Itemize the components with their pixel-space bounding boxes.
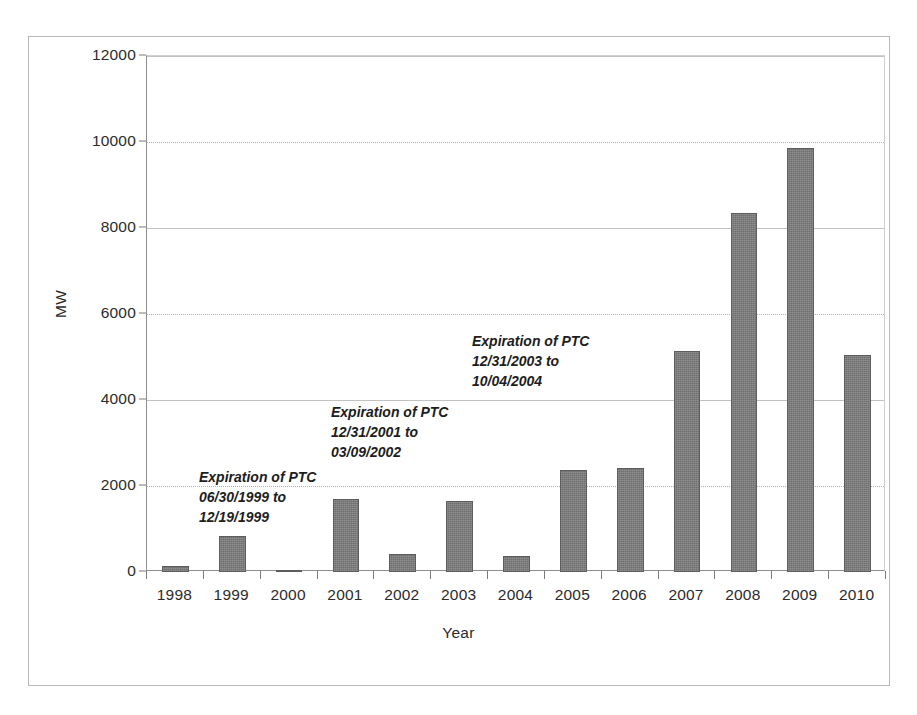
x-tick-label-2008: 2008 bbox=[725, 586, 760, 604]
annotation-ptc-2004: Expiration of PTC12/31/2003 to10/04/2004 bbox=[472, 332, 589, 392]
y-tick-label: 6000 bbox=[64, 304, 136, 322]
gridline-8000 bbox=[147, 228, 884, 229]
bar-2006 bbox=[617, 468, 644, 572]
bar-1999 bbox=[219, 536, 246, 572]
x-tick-label-2005: 2005 bbox=[555, 586, 590, 604]
plot-area: Expiration of PTC06/30/1999 to12/19/1999… bbox=[146, 55, 885, 571]
x-tick-mark bbox=[487, 571, 488, 579]
annotation-ptc-1999: Expiration of PTC06/30/1999 to12/19/1999 bbox=[199, 468, 316, 528]
y-tick-label: 8000 bbox=[64, 218, 136, 236]
gridline-12000 bbox=[147, 56, 884, 57]
y-tick-mark bbox=[139, 227, 146, 228]
x-tick-mark bbox=[771, 571, 772, 579]
y-tick-label: 4000 bbox=[64, 390, 136, 408]
y-tick-mark bbox=[139, 485, 146, 486]
y-tick-label: 2000 bbox=[64, 476, 136, 494]
gridline-6000 bbox=[147, 314, 884, 315]
bar-2002 bbox=[389, 554, 416, 572]
y-tick-label: 0 bbox=[64, 562, 136, 580]
bar-2004 bbox=[503, 556, 530, 572]
bar-2003 bbox=[446, 501, 473, 572]
bar-2009 bbox=[787, 148, 814, 572]
x-tick-mark bbox=[260, 571, 261, 579]
x-tick-mark bbox=[373, 571, 374, 579]
annotation-line: 06/30/1999 to bbox=[199, 488, 316, 508]
bar-2001 bbox=[333, 499, 360, 572]
annotation-line: 12/31/2003 to bbox=[472, 352, 589, 372]
annotation-line: 10/04/2004 bbox=[472, 372, 589, 392]
y-tick-mark bbox=[139, 141, 146, 142]
x-tick-mark bbox=[430, 571, 431, 579]
x-tick-mark bbox=[714, 571, 715, 579]
y-tick-mark bbox=[139, 571, 146, 572]
x-tick-mark bbox=[601, 571, 602, 579]
x-tick-label-2003: 2003 bbox=[441, 586, 476, 604]
x-tick-mark bbox=[544, 571, 545, 579]
bar-2007 bbox=[674, 351, 701, 572]
annotation-line: 12/19/1999 bbox=[199, 508, 316, 528]
x-tick-mark bbox=[203, 571, 204, 579]
x-tick-label-2001: 2001 bbox=[327, 586, 362, 604]
x-tick-mark bbox=[317, 571, 318, 579]
x-tick-mark bbox=[658, 571, 659, 579]
y-tick-mark bbox=[139, 399, 146, 400]
bar-2008 bbox=[731, 213, 758, 572]
x-tick-label-2009: 2009 bbox=[782, 586, 817, 604]
x-tick-label-2007: 2007 bbox=[668, 586, 703, 604]
y-tick-label: 10000 bbox=[64, 132, 136, 150]
annotation-line: 12/31/2001 to bbox=[331, 423, 448, 443]
annotation-line: 03/09/2002 bbox=[331, 443, 448, 463]
x-tick-label-2010: 2010 bbox=[839, 586, 874, 604]
gridline-4000 bbox=[147, 400, 884, 401]
x-tick-mark bbox=[146, 571, 147, 579]
x-tick-label-2004: 2004 bbox=[498, 586, 533, 604]
x-axis-title: Year bbox=[0, 624, 917, 642]
y-tick-mark bbox=[139, 55, 146, 56]
x-tick-mark bbox=[828, 571, 829, 579]
y-tick-mark bbox=[139, 313, 146, 314]
x-tick-label-2006: 2006 bbox=[612, 586, 647, 604]
x-tick-label-1998: 1998 bbox=[157, 586, 192, 604]
gridline-10000 bbox=[147, 142, 884, 143]
x-tick-label-2000: 2000 bbox=[270, 586, 305, 604]
x-tick-label-1999: 1999 bbox=[214, 586, 249, 604]
annotation-line: Expiration of PTC bbox=[331, 403, 448, 423]
bar-2000 bbox=[276, 570, 303, 572]
annotation-line: Expiration of PTC bbox=[199, 468, 316, 488]
annotation-ptc-2002: Expiration of PTC12/31/2001 to03/09/2002 bbox=[331, 403, 448, 463]
bar-2005 bbox=[560, 470, 587, 572]
bar-2010 bbox=[844, 355, 871, 572]
annotation-line: Expiration of PTC bbox=[472, 332, 589, 352]
x-tick-label-2002: 2002 bbox=[384, 586, 419, 604]
y-tick-label: 12000 bbox=[64, 46, 136, 64]
bar-1998 bbox=[162, 566, 189, 572]
x-tick-mark bbox=[885, 571, 886, 579]
